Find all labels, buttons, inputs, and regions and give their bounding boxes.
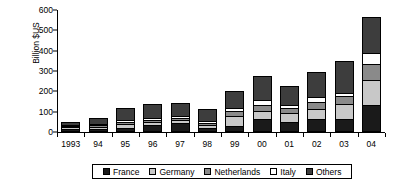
bar-segment-france[interactable]	[198, 128, 217, 132]
bar-segment-others[interactable]	[225, 91, 244, 108]
bar-segment-others[interactable]	[198, 109, 217, 121]
y-axis-tick-mark	[53, 71, 57, 72]
x-axis-tick-mark	[385, 133, 386, 137]
bar-stack[interactable]	[143, 104, 162, 132]
bar-segment-others[interactable]	[335, 61, 354, 93]
bar-segment-others[interactable]	[280, 86, 299, 105]
legend-item-italy[interactable]: Italy	[270, 167, 296, 177]
x-axis-tick-mark	[57, 133, 58, 137]
bar-segment-germany[interactable]	[335, 104, 354, 119]
bar-segment-germany[interactable]	[307, 109, 326, 119]
legend-swatch-icon	[204, 168, 211, 175]
legend-swatch-icon	[270, 168, 277, 175]
bar-stack[interactable]	[280, 86, 299, 132]
x-axis-tick-mark	[166, 133, 167, 137]
legend-swatch-icon	[149, 168, 156, 175]
bar-segment-netherlands[interactable]	[362, 64, 381, 80]
legend-item-netherlands[interactable]: Netherlands	[204, 167, 260, 177]
bar-stack[interactable]	[253, 76, 272, 132]
bar-segment-france[interactable]	[335, 119, 354, 132]
bar-segment-netherlands[interactable]	[307, 102, 326, 109]
y-axis-tick-label: 300	[39, 66, 53, 76]
bar-segment-france[interactable]	[89, 129, 108, 132]
bar-segment-others[interactable]	[143, 104, 162, 118]
legend-item-france[interactable]: France	[103, 167, 139, 177]
x-axis-tick-mark	[330, 133, 331, 137]
y-axis-tick-label: 0	[48, 127, 53, 137]
bar-stack[interactable]	[225, 91, 244, 132]
bar-segment-france[interactable]	[280, 122, 299, 132]
bar-segment-germany[interactable]	[225, 116, 244, 125]
x-axis-tick-mark	[112, 133, 113, 137]
y-axis-tick-label: 100	[39, 107, 53, 117]
x-axis-tick-label: 04	[351, 139, 391, 149]
y-axis-tick-mark	[53, 10, 57, 11]
bar-segment-france[interactable]	[61, 129, 80, 132]
bar-stack[interactable]	[307, 72, 326, 132]
bar-segment-others[interactable]	[362, 17, 381, 53]
bar-stack[interactable]	[61, 122, 80, 132]
bar-segment-italy[interactable]	[362, 53, 381, 64]
bar-stack[interactable]	[335, 61, 354, 132]
y-axis-tick-label: 200	[39, 86, 53, 96]
y-axis-line	[57, 10, 58, 133]
y-axis-tick-label: 400	[39, 46, 53, 56]
y-axis-tick-mark	[53, 111, 57, 112]
bar-stack[interactable]	[89, 118, 108, 132]
bar-stack[interactable]	[362, 17, 381, 132]
bar-segment-france[interactable]	[225, 126, 244, 133]
bar-stack[interactable]	[116, 108, 135, 132]
x-axis-tick-mark	[303, 133, 304, 137]
bar-segment-france[interactable]	[116, 128, 135, 132]
legend-swatch-icon	[306, 168, 313, 175]
y-axis-tick-mark	[53, 30, 57, 31]
legend-item-others[interactable]: Others	[306, 167, 342, 177]
y-axis-tick-label: 600	[39, 5, 53, 15]
legend-swatch-icon	[103, 168, 110, 175]
legend-label: Germany	[159, 167, 194, 177]
y-axis-tick-mark	[53, 91, 57, 92]
y-axis-tick-label: 500	[39, 25, 53, 35]
bar-segment-others[interactable]	[171, 103, 190, 115]
bar-segment-others[interactable]	[307, 72, 326, 97]
x-axis-tick-mark	[139, 133, 140, 137]
x-axis-tick-mark	[221, 133, 222, 137]
legend-label: Others	[316, 167, 342, 177]
y-axis-tick-mark	[53, 50, 57, 51]
bar-segment-france[interactable]	[362, 105, 381, 132]
x-axis-tick-mark	[248, 133, 249, 137]
legend-label: Italy	[280, 167, 296, 177]
legend-label: France	[113, 167, 139, 177]
x-axis-tick-mark	[358, 133, 359, 137]
bar-segment-germany[interactable]	[362, 80, 381, 104]
bar-segment-germany[interactable]	[253, 111, 272, 119]
bar-segment-others[interactable]	[116, 108, 135, 120]
bar-segment-france[interactable]	[171, 123, 190, 132]
bar-segment-france[interactable]	[253, 119, 272, 132]
plot-area: 0100200300400500600 19939495969798990001…	[57, 10, 385, 133]
x-axis-tick-mark	[276, 133, 277, 137]
x-axis-tick-mark	[84, 133, 85, 137]
bar-segment-france[interactable]	[307, 119, 326, 132]
bar-segment-france[interactable]	[143, 125, 162, 132]
bar-segment-netherlands[interactable]	[335, 96, 354, 104]
legend-label: Netherlands	[214, 167, 260, 177]
chart-legend: FranceGermanyNetherlandsItalyOthers	[92, 164, 352, 179]
chart-figure: Billion $US 0100200300400500600 19939495…	[0, 0, 398, 186]
bar-segment-germany[interactable]	[280, 113, 299, 122]
bar-segment-others[interactable]	[253, 76, 272, 99]
bar-stack[interactable]	[171, 103, 190, 132]
bar-stack[interactable]	[198, 109, 217, 132]
legend-item-germany[interactable]: Germany	[149, 167, 194, 177]
x-axis-tick-mark	[194, 133, 195, 137]
